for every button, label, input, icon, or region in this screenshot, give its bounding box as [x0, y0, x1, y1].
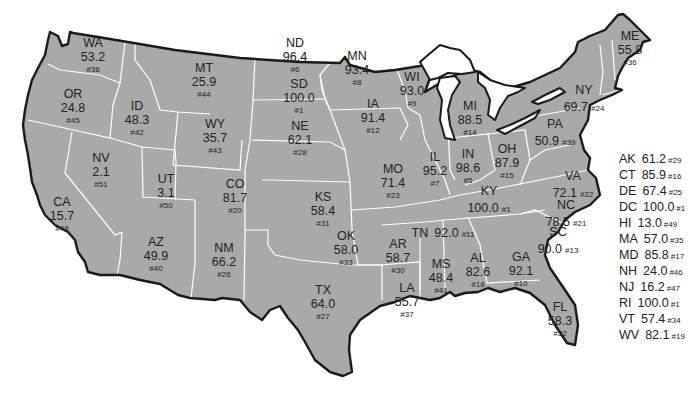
- state-label-ga: GA92.1#10: [509, 251, 533, 288]
- state-label-ky: KY100.0#1: [467, 185, 510, 215]
- state-value: 100.0: [467, 201, 498, 215]
- state-rank: #50: [157, 202, 174, 210]
- state-abbr: TN: [412, 226, 429, 240]
- state-label-mo: MO71.4#23: [381, 163, 405, 200]
- state-value: 66.2: [212, 256, 236, 269]
- legend-rank: #25: [669, 188, 682, 197]
- legend-value: 100.0: [643, 200, 674, 214]
- state-value: 72.1: [553, 186, 577, 200]
- legend-rank: #47: [667, 284, 680, 293]
- legend-value: 61.2: [642, 152, 666, 166]
- state-rank: #5: [456, 177, 480, 185]
- state-value-row: 72.1#22: [553, 184, 594, 200]
- state-value: 58.4: [311, 205, 335, 218]
- state-label-sd: SD100.0#1: [283, 78, 314, 115]
- state-abbr: LA: [395, 282, 419, 295]
- legend-item-ct: CT85.9#16: [619, 167, 685, 183]
- legend-rank: #17: [671, 252, 684, 261]
- state-label-ms: MS48.4#41: [429, 258, 453, 295]
- state-label-ca: CA15.7#48: [50, 196, 74, 233]
- state-value: 49.9: [144, 250, 168, 263]
- state-rank: #44: [192, 91, 216, 99]
- state-value: 92.0: [434, 226, 458, 240]
- state-abbr: OK: [334, 230, 358, 243]
- state-value: 48.3: [125, 114, 149, 127]
- legend-item-nj: NJ16.2#47: [619, 279, 685, 295]
- legend-rank: #1: [676, 204, 685, 213]
- state-rank: #28: [288, 149, 312, 157]
- state-abbr: CA: [50, 196, 74, 209]
- state-abbr: WI: [400, 71, 424, 84]
- state-label-mt: MT25.9#44: [192, 62, 216, 99]
- state-rank: #48: [50, 225, 74, 233]
- legend-abbr: DE: [619, 184, 636, 198]
- state-rank: #12: [361, 127, 385, 135]
- state-rank: #8: [345, 79, 369, 87]
- state-abbr: KY: [467, 185, 510, 198]
- state-abbr: OR: [61, 88, 85, 101]
- state-abbr: MO: [381, 163, 405, 176]
- state-value: 58.3: [548, 315, 572, 328]
- state-abbr: MI: [458, 100, 482, 113]
- state-value: 92.1: [509, 265, 533, 278]
- legend-item-de: DE67.4#25: [619, 183, 685, 199]
- state-label-ia: IA91.4#12: [361, 98, 385, 135]
- legend-value: 13.0: [638, 216, 662, 230]
- state-rank: #15: [495, 172, 519, 180]
- state-rank: #7: [423, 180, 447, 188]
- state-rank: #11: [462, 230, 475, 239]
- state-rank: #51: [92, 181, 109, 189]
- state-value: 35.7: [203, 132, 227, 145]
- state-label-ar: AR58.7#30: [386, 238, 410, 275]
- legend-item-md: MD85.8#17: [619, 247, 685, 263]
- state-rank: #21: [573, 219, 586, 228]
- state-rank: #26: [212, 271, 236, 279]
- state-value: 25.9: [192, 76, 216, 89]
- state-rank: #37: [395, 311, 419, 319]
- state-rank: #18: [466, 281, 490, 289]
- legend-item-ri: RI100.0#1: [619, 295, 685, 311]
- legend-abbr: RI: [619, 296, 632, 310]
- state-abbr: PA: [535, 118, 576, 131]
- legend-value: 85.8: [644, 248, 668, 262]
- state-abbr: AL: [466, 252, 490, 265]
- state-value: 50.9: [535, 134, 559, 148]
- state-label-tn: TN92.0#11: [412, 224, 475, 240]
- legend-item-vt: VT57.4#34: [619, 311, 685, 327]
- state-abbr: MS: [429, 258, 453, 271]
- state-label-la: LA55.7#37: [395, 282, 419, 319]
- state-value-row: 90.0#13: [538, 240, 579, 256]
- legend-rank: #34: [667, 316, 680, 325]
- state-abbr: ID: [125, 100, 149, 113]
- state-rank: #33: [334, 259, 358, 267]
- legend-abbr: AK: [619, 152, 636, 166]
- state-abbr: NV: [92, 152, 109, 165]
- state-value: 48.4: [429, 272, 453, 285]
- state-abbr: WY: [203, 118, 227, 131]
- state-abbr: AR: [386, 238, 410, 251]
- state-abbr: VA: [553, 170, 594, 183]
- state-value-row: 100.0#1: [467, 199, 510, 215]
- state-value-row: 78.5#21: [546, 213, 587, 229]
- state-rank: #31: [311, 220, 335, 228]
- state-label-mn: MN93.4#8: [345, 50, 369, 87]
- state-label-az: AZ49.9#40: [144, 236, 168, 273]
- state-abbr: NY: [564, 84, 605, 97]
- state-label-sc: SC90.0#13: [538, 226, 579, 256]
- state-value: 64.0: [311, 298, 335, 311]
- state-label-nc: NC78.5#21: [546, 199, 587, 229]
- state-rank: #27: [311, 313, 335, 321]
- state-rank: #30: [386, 267, 410, 275]
- state-value: 82.6: [466, 266, 490, 279]
- state-rank: #32: [548, 330, 572, 338]
- state-value: 53.2: [81, 51, 105, 64]
- state-rank: #6: [283, 66, 307, 74]
- state-value: 95.2: [423, 165, 447, 178]
- state-rank: #40: [144, 265, 168, 273]
- state-label-il: IL95.2#7: [423, 151, 447, 188]
- state-label-ny: NY69.7#24: [564, 84, 605, 114]
- state-rank: #39: [562, 138, 575, 147]
- state-label-va: VA72.1#22: [553, 170, 594, 200]
- state-value: 87.9: [495, 157, 519, 170]
- legend-rank: #1: [671, 300, 680, 309]
